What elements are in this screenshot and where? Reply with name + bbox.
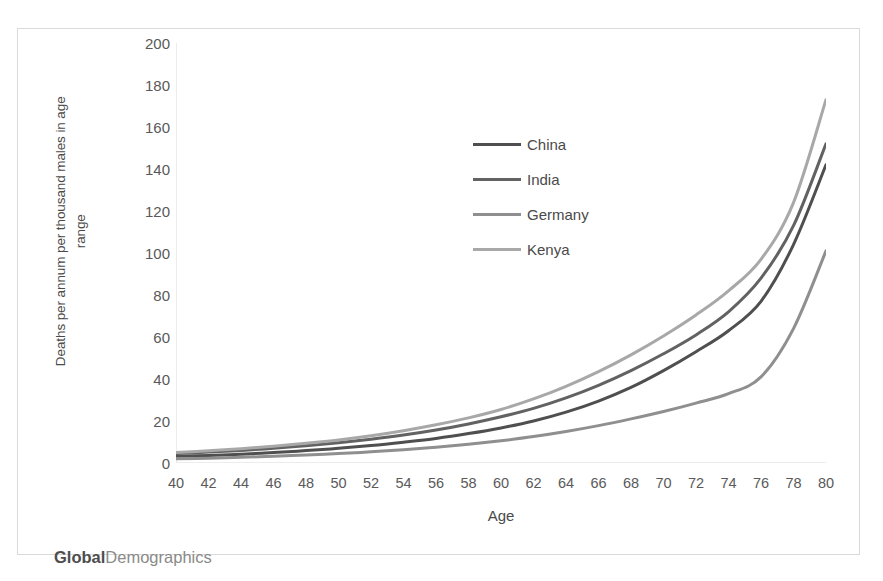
y-axis-tick-label: 60 xyxy=(118,329,170,346)
y-axis-tick-label: 120 xyxy=(118,203,170,220)
y-axis-tick-label: 0 xyxy=(118,455,170,472)
x-axis-tick-label: 66 xyxy=(582,475,616,491)
legend-swatch-icon xyxy=(473,213,521,216)
y-axis-tick-label: 160 xyxy=(118,119,170,136)
legend-item[interactable]: China xyxy=(473,127,663,162)
y-axis-tick-label: 40 xyxy=(118,371,170,388)
legend-item[interactable]: Germany xyxy=(473,197,663,232)
y-axis-tick-label: 100 xyxy=(118,245,170,262)
y-axis-tick-label: 20 xyxy=(118,413,170,430)
legend-swatch-icon xyxy=(473,143,521,146)
x-axis-tick-labels: 4042444648505254565860626466687072747678… xyxy=(176,475,826,499)
chart-plot-wrapper: Deaths per annum per thousand males in a… xyxy=(18,29,861,556)
legend-label: China xyxy=(527,136,566,153)
x-axis-tick-label: 46 xyxy=(257,475,291,491)
y-axis-title: Deaths per annum per thousand males in a… xyxy=(51,66,92,396)
x-axis-tick-label: 58 xyxy=(452,475,486,491)
legend-label: India xyxy=(527,171,560,188)
x-axis-tick-label: 70 xyxy=(647,475,681,491)
legend-swatch-icon xyxy=(473,248,521,251)
x-axis-tick-label: 78 xyxy=(777,475,811,491)
watermark-light: Demographics xyxy=(105,548,211,566)
chart-legend: ChinaIndiaGermanyKenya xyxy=(473,127,663,267)
x-axis-tick-label: 44 xyxy=(224,475,258,491)
legend-item[interactable]: Kenya xyxy=(473,232,663,267)
x-axis-tick-label: 80 xyxy=(809,475,843,491)
legend-label: Germany xyxy=(527,206,589,223)
x-axis-tick-label: 68 xyxy=(614,475,648,491)
x-axis-tick-label: 42 xyxy=(192,475,226,491)
x-axis-tick-label: 48 xyxy=(289,475,323,491)
legend-label: Kenya xyxy=(527,241,570,258)
x-axis-tick-label: 76 xyxy=(744,475,778,491)
chart-frame: Deaths per annum per thousand males in a… xyxy=(17,28,860,555)
x-axis-tick-label: 60 xyxy=(484,475,518,491)
y-axis-tick-label: 80 xyxy=(118,287,170,304)
y-axis-tick-label: 200 xyxy=(118,35,170,52)
x-axis-title: Age xyxy=(176,507,826,524)
x-axis-tick-label: 40 xyxy=(159,475,193,491)
x-axis-tick-label: 62 xyxy=(517,475,551,491)
x-axis-tick-label: 50 xyxy=(322,475,356,491)
x-axis-tick-label: 64 xyxy=(549,475,583,491)
legend-item[interactable]: India xyxy=(473,162,663,197)
y-axis-title-line-2: range xyxy=(71,66,91,396)
x-axis-tick-label: 74 xyxy=(712,475,746,491)
watermark-strong: Global xyxy=(54,548,105,566)
x-axis-tick-label: 52 xyxy=(354,475,388,491)
y-axis-title-line-1: Deaths per annum per thousand males in a… xyxy=(51,66,71,396)
y-axis-tick-label: 140 xyxy=(118,161,170,178)
x-axis-tick-label: 54 xyxy=(387,475,421,491)
legend-swatch-icon xyxy=(473,178,521,181)
watermark-global-demographics: GlobalDemographics xyxy=(54,548,212,567)
x-axis-tick-label: 72 xyxy=(679,475,713,491)
y-axis-tick-label: 180 xyxy=(118,77,170,94)
x-axis-tick-label: 56 xyxy=(419,475,453,491)
